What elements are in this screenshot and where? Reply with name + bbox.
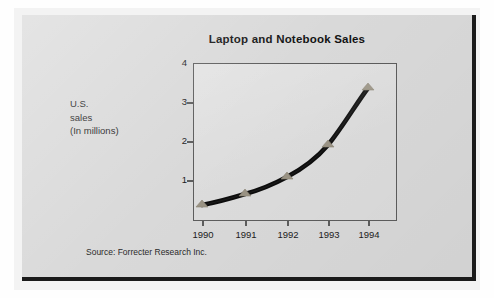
plot-svg xyxy=(194,64,393,217)
x-tick-label-1994: 1994 xyxy=(352,229,386,240)
x-tick-label-1990: 1990 xyxy=(186,229,220,240)
y-tick-label-3: 3 xyxy=(165,96,187,107)
data-markers xyxy=(196,83,374,207)
data-point-1994 xyxy=(362,83,374,90)
chart-title-text: Laptop and Notebook Sales xyxy=(209,33,365,45)
plot-area xyxy=(193,63,397,221)
y-tick-label-4: 4 xyxy=(165,57,187,68)
x-tick-mark-1990 xyxy=(202,220,204,226)
chart-screenshot: Laptop and Notebook Sales U.S. sales (In… xyxy=(0,0,494,298)
y-tick-label-1: 1 xyxy=(165,174,187,185)
chart-panel: Laptop and Notebook Sales U.S. sales (In… xyxy=(22,15,472,277)
y-axis-label: U.S. sales (In millions) xyxy=(70,97,166,138)
x-tick-mark-1992 xyxy=(287,220,289,226)
x-tick-label-1993: 1993 xyxy=(312,229,346,240)
x-tick-mark-1991 xyxy=(245,220,247,226)
y-axis-label-line-2: sales xyxy=(70,111,166,125)
y-tick-label-2: 2 xyxy=(165,135,187,146)
data-line-series-1 xyxy=(202,88,368,205)
source-note: Source: Forrecter Research Inc. xyxy=(86,247,207,257)
y-axis-label-line-3: (In millions) xyxy=(70,124,166,138)
x-tick-label-1992: 1992 xyxy=(271,229,305,240)
chart-title: Laptop and Notebook Sales xyxy=(22,33,472,45)
data-line-highlight xyxy=(202,88,368,205)
x-tick-mark-1993 xyxy=(328,220,330,226)
x-tick-mark-1994 xyxy=(368,220,370,226)
x-tick-label-1991: 1991 xyxy=(229,229,263,240)
y-axis-label-line-1: U.S. xyxy=(70,97,166,111)
